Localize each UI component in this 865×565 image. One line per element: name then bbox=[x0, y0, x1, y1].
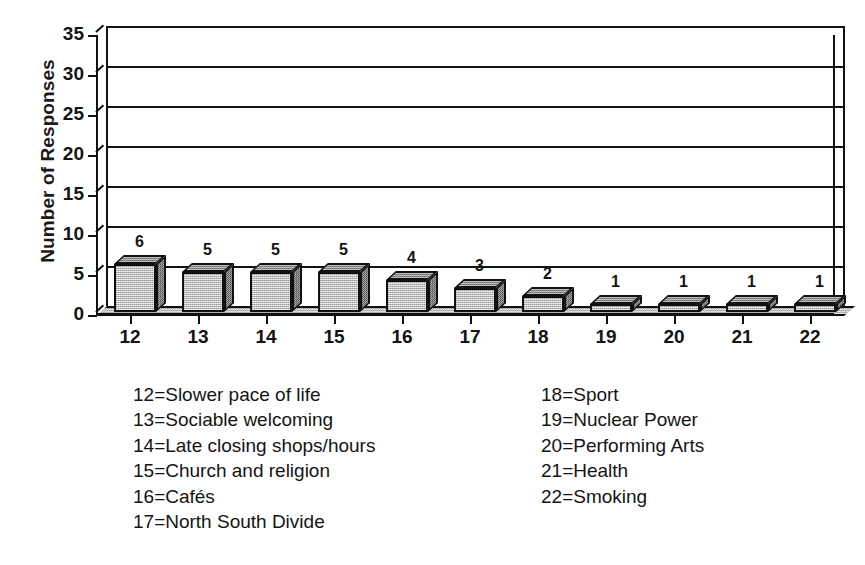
gridline-30 bbox=[106, 66, 844, 68]
legend-item-left-0: 12=Slower pace of life bbox=[133, 382, 375, 407]
chart-figure: Number of Responses 05101520253035 65554… bbox=[0, 0, 865, 565]
legend-column-right: 18=Sport19=Nuclear Power20=Performing Ar… bbox=[541, 382, 704, 509]
x-tick-mark-16 bbox=[402, 315, 404, 324]
legend-column-left: 12=Slower pace of life13=Sociable welcom… bbox=[133, 382, 375, 534]
x-tick-label-12: 12 bbox=[100, 326, 160, 348]
y-tick-label-15: 15 bbox=[40, 183, 84, 205]
x-tick-label-14: 14 bbox=[236, 326, 296, 348]
y-axis-back-line bbox=[106, 26, 108, 306]
x-tick-label-22: 22 bbox=[780, 326, 840, 348]
y-tick-depth-35 bbox=[95, 24, 104, 32]
legend-item-right-0: 18=Sport bbox=[541, 382, 704, 407]
bar-value-label-18: 2 bbox=[518, 265, 578, 283]
bar-value-label-22: 1 bbox=[790, 273, 850, 291]
x-tick-label-13: 13 bbox=[168, 326, 228, 348]
y-tick-label-25: 25 bbox=[40, 103, 84, 125]
x-tick-label-17: 17 bbox=[440, 326, 500, 348]
bar-front-21 bbox=[726, 304, 768, 312]
bar-front-20 bbox=[658, 304, 700, 312]
x-tick-mark-22 bbox=[810, 315, 812, 324]
bar-front-22 bbox=[794, 304, 836, 312]
x-tick-mark-19 bbox=[606, 315, 608, 324]
y-axis-front-line bbox=[96, 35, 98, 315]
x-tick-label-15: 15 bbox=[304, 326, 364, 348]
bar-value-label-13: 5 bbox=[178, 241, 238, 259]
x-tick-mark-20 bbox=[674, 315, 676, 324]
bar-side-12 bbox=[156, 255, 166, 312]
y-tick-label-10: 10 bbox=[40, 223, 84, 245]
legend-item-right-4: 22=Smoking bbox=[541, 484, 704, 509]
bar-front-16 bbox=[386, 280, 428, 312]
bar-front-12 bbox=[114, 264, 156, 312]
gridline-35 bbox=[106, 26, 844, 28]
bar-value-label-16: 4 bbox=[382, 249, 442, 267]
legend-item-right-1: 19=Nuclear Power bbox=[541, 407, 704, 432]
bar-value-label-14: 5 bbox=[246, 241, 306, 259]
frame-right-back-edge bbox=[843, 26, 845, 306]
bar-value-label-20: 1 bbox=[654, 273, 714, 291]
legend-item-right-3: 21=Health bbox=[541, 458, 704, 483]
y-tick-label-35: 35 bbox=[40, 23, 84, 45]
gridline-10 bbox=[106, 226, 844, 228]
x-tick-mark-15 bbox=[334, 315, 336, 324]
legend-item-left-2: 14=Late closing shops/hours bbox=[133, 433, 375, 458]
bar-value-label-21: 1 bbox=[722, 273, 782, 291]
legend-item-left-1: 13=Sociable welcoming bbox=[133, 407, 375, 432]
gridline-20 bbox=[106, 146, 844, 148]
x-tick-label-19: 19 bbox=[576, 326, 636, 348]
legend-item-right-2: 20=Performing Arts bbox=[541, 433, 704, 458]
gridline-25 bbox=[106, 106, 844, 108]
x-tick-mark-18 bbox=[538, 315, 540, 324]
legend-item-left-5: 17=North South Divide bbox=[133, 509, 375, 534]
bar-value-label-17: 3 bbox=[450, 257, 510, 275]
y-tick-label-30: 30 bbox=[40, 63, 84, 85]
bar-front-13 bbox=[182, 272, 224, 312]
y-tick-label-20: 20 bbox=[40, 143, 84, 165]
chart-floor-front-edge bbox=[96, 313, 834, 315]
legend: 12=Slower pace of life13=Sociable welcom… bbox=[0, 382, 865, 565]
x-tick-mark-13 bbox=[198, 315, 200, 324]
legend-item-left-3: 15=Church and religion bbox=[133, 458, 375, 483]
bar-value-label-12: 6 bbox=[110, 233, 170, 251]
x-tick-label-21: 21 bbox=[712, 326, 772, 348]
x-tick-mark-17 bbox=[470, 315, 472, 324]
bar-front-17 bbox=[454, 288, 496, 312]
x-tick-label-18: 18 bbox=[508, 326, 568, 348]
bar-value-label-15: 5 bbox=[314, 241, 374, 259]
y-tick-label-0: 0 bbox=[40, 303, 84, 325]
bar-front-15 bbox=[318, 272, 360, 312]
gridline-15 bbox=[106, 186, 844, 188]
x-tick-mark-14 bbox=[266, 315, 268, 324]
bar-front-18 bbox=[522, 296, 564, 312]
y-tick-label-5: 5 bbox=[40, 263, 84, 285]
x-tick-mark-21 bbox=[742, 315, 744, 324]
bar-value-label-19: 1 bbox=[586, 273, 646, 291]
x-tick-mark-12 bbox=[130, 315, 132, 324]
bar-front-14 bbox=[250, 272, 292, 312]
bar-front-19 bbox=[590, 304, 632, 312]
x-tick-label-16: 16 bbox=[372, 326, 432, 348]
x-tick-label-20: 20 bbox=[644, 326, 704, 348]
legend-item-left-4: 16=Cafés bbox=[133, 484, 375, 509]
